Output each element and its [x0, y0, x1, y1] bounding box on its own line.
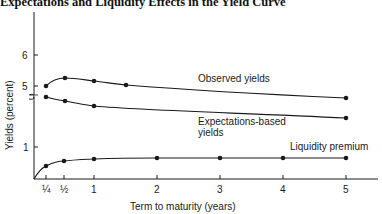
- x-tick-3: 3: [217, 184, 223, 195]
- x-tick-5: 5: [343, 184, 349, 195]
- x-axis: [34, 175, 378, 179]
- x-tick-1: 1: [91, 184, 97, 195]
- x-axis-label: Term to maturity (years): [130, 201, 236, 212]
- label-expectations-line2: yields: [198, 127, 224, 138]
- label-observed-yields: Observed yields: [198, 73, 270, 84]
- y-tick-6: 6: [22, 50, 28, 61]
- x-tick-2: 2: [154, 184, 160, 195]
- series-observed-yields: [44, 76, 349, 101]
- label-expectations-line1: Expectations-based: [198, 116, 286, 127]
- y-axis-label: Yields (percent): [4, 80, 15, 150]
- x-tick-quarter: ¼: [42, 184, 51, 195]
- y-tick-5: 5: [22, 81, 28, 92]
- y-tick-1: 1: [23, 142, 29, 153]
- label-liquidity-premium: Liquidity premium: [290, 141, 368, 152]
- yield-curve-chart: 6 5 1 ¼ ½ 1 2 3 4 5 Term to maturity (ye…: [0, 0, 382, 214]
- x-tick-half: ½: [60, 184, 69, 195]
- series-liquidity-premium: [34, 156, 348, 179]
- series-expectations-yields: [44, 95, 349, 121]
- y-axis: [29, 12, 38, 179]
- x-tick-4: 4: [280, 184, 286, 195]
